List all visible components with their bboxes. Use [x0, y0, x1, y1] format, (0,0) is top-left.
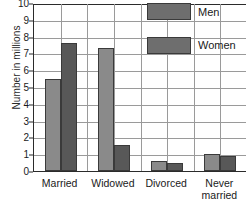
x-label-line: Never: [202, 178, 238, 190]
bar-divorced-women: [167, 163, 183, 171]
bar-married-women: [61, 43, 77, 171]
x-label-never-married: Nevermarried: [202, 178, 238, 201]
y-axis-ticks: 109876543210: [12, 0, 29, 173]
x-label-line: Widowed: [91, 178, 134, 190]
men-swatch: [147, 3, 191, 20]
legend-label-men: Men: [198, 6, 219, 18]
bars-layer: [34, 4, 246, 171]
x-label-divorced: Divorced: [145, 178, 186, 190]
bar-divorced-men: [151, 161, 167, 171]
bar-widowed-women: [114, 145, 130, 171]
legend-item-men[interactable]: Men: [147, 3, 219, 20]
legend-label-women: Women: [198, 39, 236, 51]
legend-item-women[interactable]: Women: [147, 37, 236, 54]
footer-partial-text: [8, 203, 244, 210]
plot-area: MenWomen: [33, 4, 246, 172]
bar-never-married-men: [204, 154, 220, 171]
x-label-line: Divorced: [145, 178, 186, 190]
y-tick-label-10: 10: [18, 0, 29, 9]
x-label-widowed: Widowed: [91, 178, 134, 190]
bar-married-men: [45, 79, 61, 171]
x-label-line: married: [202, 190, 238, 202]
x-label-line: Married: [42, 178, 78, 190]
x-label-married: Married: [42, 178, 78, 190]
bar-never-married-women: [220, 156, 236, 171]
women-swatch: [147, 37, 191, 54]
bar-chart: Number in millions 109876543210 MenWomen…: [0, 0, 252, 211]
bar-widowed-men: [98, 48, 114, 171]
